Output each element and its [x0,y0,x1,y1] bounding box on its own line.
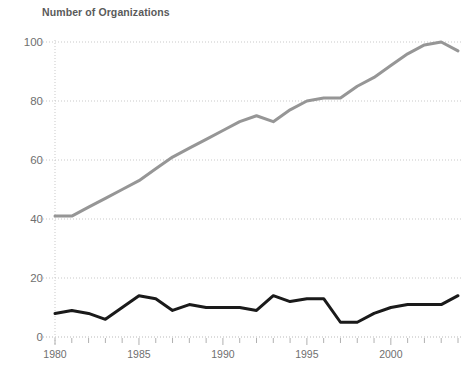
y-axis-tick-label: 60 [30,154,43,166]
y-axis-tick-label: 100 [24,36,43,48]
x-axis-tick-label: 1985 [127,348,151,360]
data-series [55,42,458,322]
y-axis-tick-label: 40 [30,213,43,225]
x-axis-ticks [55,338,458,345]
gridlines [40,40,462,345]
chart-plot: 020406080100 19801985199019952000 [0,0,474,376]
x-axis-tick-label: 1995 [295,348,319,360]
x-axis-tick-label: 1990 [211,348,235,360]
x-axis-tick-label: 2000 [379,348,403,360]
x-axis-tick-label: 1980 [43,348,67,360]
chart-container: Number of Organizations 020406080100 198… [0,0,474,376]
y-axis-tick-label: 80 [30,95,43,107]
y-axis-tick-label: 20 [30,272,43,284]
y-axis-tick-label: 0 [37,331,43,343]
series-line-upper-gray-series [55,42,458,216]
series-line-lower-black-series [55,296,458,323]
y-axis-labels: 020406080100 [24,36,43,343]
x-axis-labels: 19801985199019952000 [43,348,402,360]
